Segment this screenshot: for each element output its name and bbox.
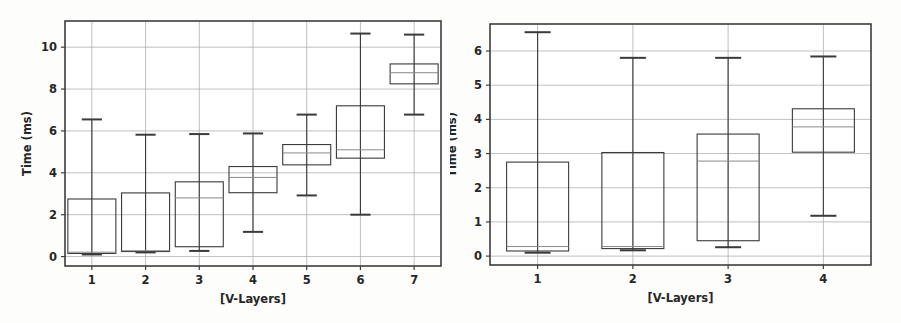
box-iqr bbox=[283, 145, 331, 165]
box-iqr bbox=[697, 134, 759, 241]
x-axis-title: [V-Layers] bbox=[648, 291, 714, 305]
y-tick-label: 8 bbox=[49, 82, 57, 96]
y-tick-label: 4 bbox=[49, 166, 57, 180]
x-tick-label: 3 bbox=[195, 273, 203, 287]
y-axis-title: Time (ms) bbox=[20, 111, 34, 176]
box-iqr bbox=[68, 199, 116, 253]
y-tick-label: 0 bbox=[474, 249, 482, 263]
y-tick-label: 5 bbox=[474, 78, 482, 92]
y-tick-label: 10 bbox=[41, 40, 57, 54]
y-tick-label: 0 bbox=[49, 250, 57, 264]
x-axis-title: [V-Layers] bbox=[220, 292, 286, 306]
x-axis: 1234 bbox=[534, 265, 828, 286]
box-iqr bbox=[390, 64, 438, 84]
y-tick-label: 4 bbox=[474, 112, 482, 126]
figure-canvas: 02468101234567[V-Layers]Time (ms) 012345… bbox=[0, 0, 901, 323]
y-tick-label: 2 bbox=[49, 208, 57, 222]
box-iqr bbox=[792, 109, 854, 152]
x-tick-label: 2 bbox=[142, 273, 150, 287]
box-iqr bbox=[507, 162, 569, 251]
box-iqr bbox=[229, 167, 277, 193]
x-tick-label: 4 bbox=[819, 272, 827, 286]
boxplot-left-svg: 02468101234567[V-Layers]Time (ms) bbox=[0, 0, 450, 323]
x-axis: 1234567 bbox=[88, 266, 418, 287]
x-tick-label: 4 bbox=[249, 273, 257, 287]
x-tick-label: 1 bbox=[534, 272, 542, 286]
box-iqr bbox=[175, 182, 223, 247]
boxplot-panel-right: 01234561234[V-Layers]Time (ms) bbox=[450, 0, 901, 323]
boxplot-right-svg: 01234561234[V-Layers]Time (ms) bbox=[450, 0, 901, 323]
box-iqr bbox=[602, 153, 664, 249]
y-tick-label: 6 bbox=[474, 44, 482, 58]
y-tick-label: 6 bbox=[49, 124, 57, 138]
x-tick-label: 3 bbox=[724, 272, 732, 286]
box-iqr bbox=[336, 106, 384, 158]
y-axis: 0123456 bbox=[474, 44, 490, 263]
y-axis: 0246810 bbox=[41, 40, 65, 263]
box-iqr bbox=[122, 193, 170, 252]
x-tick-label: 1 bbox=[88, 273, 96, 287]
x-tick-label: 7 bbox=[410, 273, 418, 287]
boxplot-panel-left: 02468101234567[V-Layers]Time (ms) bbox=[0, 0, 450, 323]
y-tick-label: 3 bbox=[474, 147, 482, 161]
x-tick-label: 2 bbox=[629, 272, 637, 286]
x-tick-label: 5 bbox=[303, 273, 311, 287]
y-axis-title: Time (ms) bbox=[450, 112, 459, 177]
y-tick-label: 2 bbox=[474, 181, 482, 195]
x-tick-label: 6 bbox=[356, 273, 364, 287]
y-tick-label: 1 bbox=[474, 215, 482, 229]
